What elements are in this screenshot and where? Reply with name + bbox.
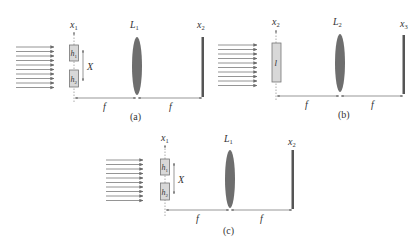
incident-rays	[218, 45, 257, 86]
svg-text:f: f	[103, 101, 107, 112]
x3-label: x3	[399, 18, 408, 30]
x2-label: x2	[196, 19, 205, 31]
screen-x2	[202, 37, 205, 97]
x2-label: x2	[287, 136, 296, 148]
svg-text:f: f	[169, 101, 173, 112]
lens-l1	[132, 37, 142, 95]
caption-a: (a)	[130, 111, 141, 123]
screen-x3	[403, 35, 406, 94]
panel-b: x2 l L2 x3 f f (b)	[218, 16, 408, 121]
caption-b: (b)	[338, 109, 350, 121]
lens-label: L2	[332, 16, 342, 28]
optical-diagram: x1 h1 h2 X L1 x2 f f (a)	[0, 0, 420, 252]
panel-c: x1 h1 h2 X L1 x2 f f (c)	[106, 132, 296, 237]
svg-text:f: f	[196, 213, 200, 224]
lens-label: L1	[129, 19, 139, 31]
panel-a: x1 h1 h2 X L1 x2 f f (a)	[16, 19, 205, 123]
lens-label: L1	[223, 133, 233, 145]
x2-label: x2	[271, 16, 280, 28]
x1-label: x1	[69, 19, 78, 31]
incident-rays	[106, 160, 143, 201]
incident-rays	[16, 47, 54, 88]
separation-label: X	[86, 61, 94, 72]
svg-text:f: f	[305, 99, 309, 110]
screen-x2	[292, 150, 295, 209]
svg-text:f: f	[260, 213, 264, 224]
lens-l2	[335, 34, 345, 92]
svg-text:f: f	[371, 99, 375, 110]
caption-c: (c)	[223, 225, 234, 237]
x1-label: x1	[160, 132, 169, 144]
separation-label: X	[177, 174, 185, 185]
lens-l1	[225, 150, 235, 208]
